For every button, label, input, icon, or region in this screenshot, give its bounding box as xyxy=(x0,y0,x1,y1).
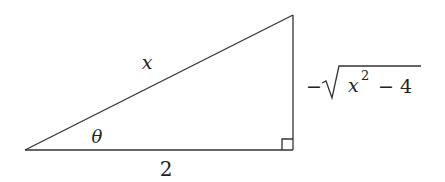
right-triangle-diagram: x θ 2 − x 2 − 4 xyxy=(0,0,445,182)
hypotenuse-side xyxy=(25,15,293,150)
opposite-minus-sign: − xyxy=(306,75,322,97)
adjacent-label: 2 xyxy=(160,157,173,181)
opposite-exponent: 2 xyxy=(361,68,369,83)
angle-label: θ xyxy=(92,126,103,147)
opposite-variable: x xyxy=(348,74,359,96)
hypotenuse-label: x xyxy=(142,51,153,73)
opposite-rest: − 4 xyxy=(372,75,412,97)
triangle xyxy=(25,15,293,150)
right-angle-marker xyxy=(282,139,293,150)
opposite-label: − x 2 − 4 xyxy=(306,66,421,98)
